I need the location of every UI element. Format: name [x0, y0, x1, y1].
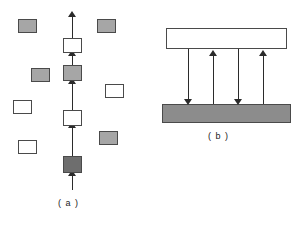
- free-node-left-2: [31, 68, 50, 82]
- bar-bottom: [162, 104, 291, 123]
- panel-a: ( a ): [0, 0, 150, 226]
- flow-arrow-up-icon-2: [209, 50, 217, 56]
- free-node-right-2: [105, 84, 124, 98]
- chain-node-4: [63, 156, 82, 173]
- flow-line-2: [213, 55, 214, 104]
- chain-line-segment-3: [72, 81, 73, 110]
- figure-root: ( a ) ( b ): [0, 0, 301, 226]
- free-node-left-3: [13, 100, 32, 114]
- chain-node-3: [63, 110, 82, 126]
- chain-line-segment-1: [72, 14, 73, 38]
- flow-arrow-down-icon-3: [234, 99, 242, 105]
- flow-line-3: [238, 49, 239, 101]
- chain-node-2: [63, 65, 82, 81]
- panel-b-caption: ( b ): [208, 131, 229, 141]
- panel-b: ( b ): [150, 0, 301, 226]
- flow-line-1: [188, 49, 189, 101]
- chain-line-segment-4: [72, 126, 73, 156]
- flow-arrow-up-icon-4: [259, 50, 267, 56]
- chain-arrow-icon-1: [68, 11, 76, 17]
- free-node-left-4: [18, 140, 37, 154]
- free-node-left-1: [18, 19, 37, 33]
- flow-arrow-down-icon-1: [184, 99, 192, 105]
- free-node-right-3: [99, 131, 118, 145]
- chain-node-1: [63, 38, 82, 53]
- flow-line-4: [263, 55, 264, 104]
- bar-top: [166, 28, 287, 49]
- free-node-right-1: [97, 19, 116, 33]
- panel-a-caption: ( a ): [58, 198, 79, 208]
